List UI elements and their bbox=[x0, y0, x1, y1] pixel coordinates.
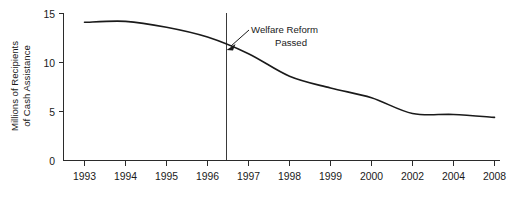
annotation-line2: Passed bbox=[275, 37, 307, 48]
y-tick-label-0: 0 bbox=[49, 156, 55, 167]
y-axis-label-line1: Millions of Recipients bbox=[9, 41, 20, 131]
x-tick-label-1999: 1999 bbox=[319, 171, 342, 182]
annotation-line1: Welfare Reform bbox=[251, 24, 318, 35]
y-tick-label-5: 5 bbox=[49, 107, 55, 118]
x-tick-label-1995: 1995 bbox=[155, 171, 178, 182]
x-tick-label-1993: 1993 bbox=[73, 171, 96, 182]
recipients-of-cash-assistance-line-chart: Millions of Recipients of Cash Assistanc… bbox=[0, 0, 516, 198]
x-tick-label-2004: 2004 bbox=[442, 171, 465, 182]
chart-figure: Millions of Recipients of Cash Assistanc… bbox=[0, 0, 516, 198]
x-tick-label-1998: 1998 bbox=[278, 171, 301, 182]
y-tick-label-10: 10 bbox=[43, 58, 55, 69]
x-tick-label-2000: 2000 bbox=[360, 171, 383, 182]
x-tick-label-1994: 1994 bbox=[114, 171, 137, 182]
x-tick-label-2008: 2008 bbox=[483, 171, 506, 182]
y-axis-label: Millions of Recipients of Cash Assistanc… bbox=[9, 41, 32, 131]
y-tick-label-15: 15 bbox=[43, 9, 55, 20]
x-tick-label-1997: 1997 bbox=[237, 171, 260, 182]
y-axis-label-line2: of Cash Assistance bbox=[21, 45, 32, 127]
x-tick-label-2002: 2002 bbox=[401, 171, 424, 182]
x-tick-label-1996: 1996 bbox=[196, 171, 219, 182]
